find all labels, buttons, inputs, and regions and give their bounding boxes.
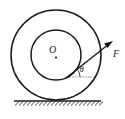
- force-label-f: F: [112, 48, 120, 59]
- ground-hatching: [15, 102, 103, 106]
- physics-diagram-figure: O F θ: [0, 0, 125, 119]
- angle-label-theta: θ: [80, 64, 84, 74]
- center-label-o: O: [49, 44, 56, 55]
- force-vector-line: [66, 44, 109, 78]
- diagram-canvas: O F θ: [0, 0, 125, 119]
- center-point-dot: [55, 56, 57, 58]
